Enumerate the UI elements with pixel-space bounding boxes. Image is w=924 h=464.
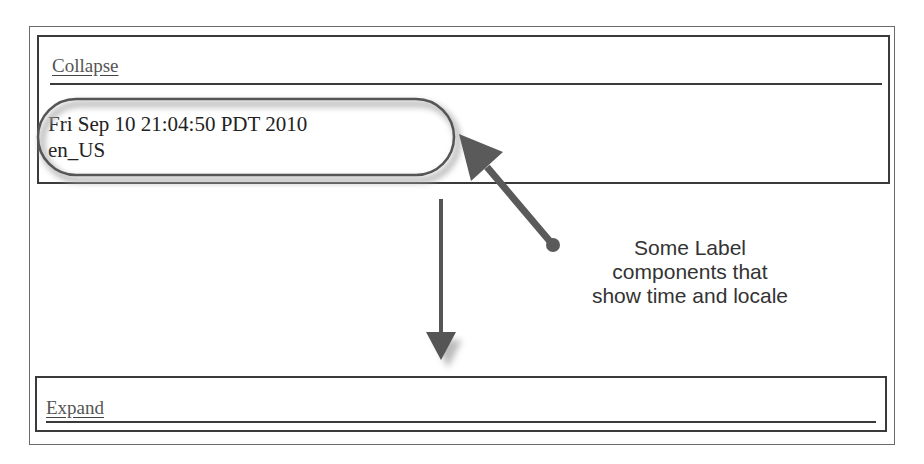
pointer-arrow-icon — [459, 134, 560, 252]
annotation-callout: Some Label components that show time and… — [585, 236, 795, 308]
annotation-overlay — [0, 0, 924, 464]
highlight-ellipse — [38, 99, 458, 180]
down-arrow-icon — [426, 199, 462, 368]
